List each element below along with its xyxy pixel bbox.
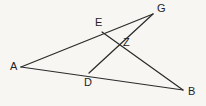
vertex-label-a: A [10,61,17,72]
vertex-label-e: E [95,17,102,28]
segment-e-b [102,32,183,90]
vertex-label-g: G [157,3,166,14]
geometry-canvas [0,0,206,106]
segment-a-g [21,14,153,67]
vertex-label-z: Z [123,37,130,48]
geometry-figure: A G B E D Z [0,0,206,106]
segment-a-b [21,67,183,90]
vertex-label-b: B [188,86,195,97]
vertex-label-d: D [84,77,92,88]
